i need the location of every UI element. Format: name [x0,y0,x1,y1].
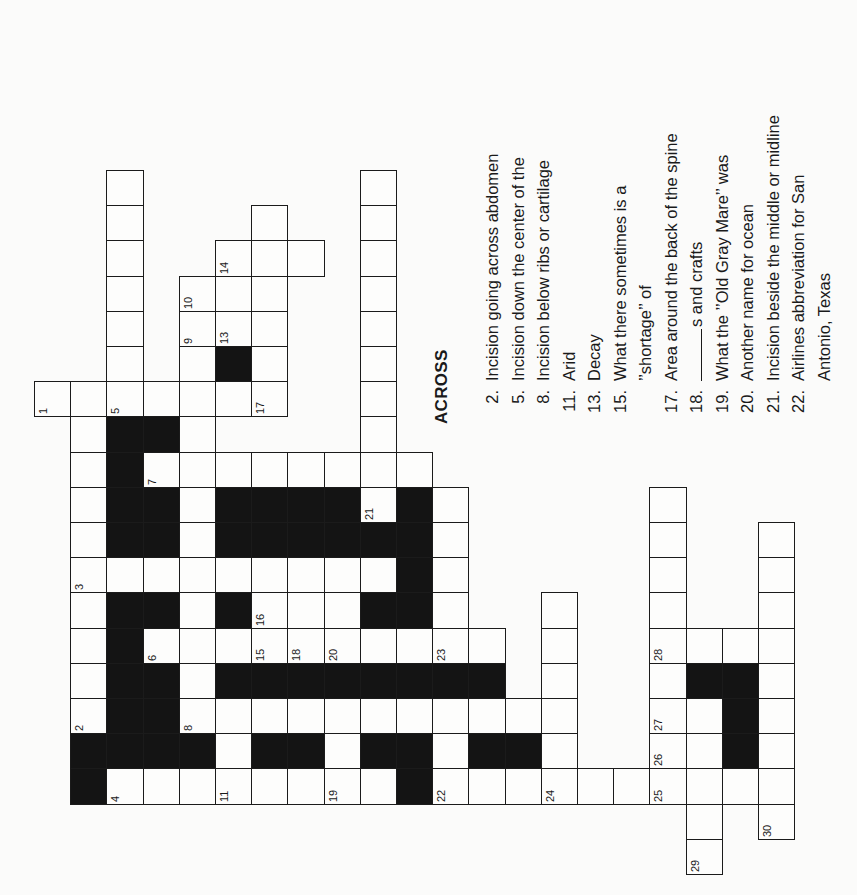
answer-square[interactable] [541,628,578,664]
answer-square[interactable] [686,768,723,804]
answer-square[interactable] [505,698,542,734]
answer-square[interactable] [324,592,361,628]
numbered-square[interactable]: 3 [70,557,107,593]
answer-square[interactable] [70,381,107,417]
answer-square[interactable] [541,733,578,769]
numbered-square[interactable]: 23 [432,628,469,664]
answer-square[interactable] [432,733,469,769]
answer-square[interactable] [758,698,795,734]
answer-square[interactable] [106,276,143,312]
answer-square[interactable] [287,452,324,488]
answer-square[interactable] [360,416,397,452]
numbered-square[interactable]: 15 [251,628,288,664]
answer-square[interactable] [722,628,759,664]
answer-square[interactable] [287,768,324,804]
numbered-square[interactable]: 18 [287,628,324,664]
answer-square[interactable] [360,628,397,664]
numbered-square[interactable]: 28 [649,628,686,664]
answer-square[interactable] [360,698,397,734]
answer-square[interactable] [251,768,288,804]
answer-square[interactable] [468,768,505,804]
answer-square[interactable] [577,768,614,804]
answer-square[interactable] [70,416,107,452]
answer-square[interactable] [251,205,288,241]
answer-square[interactable] [179,381,216,417]
answer-square[interactable] [70,487,107,523]
answer-square[interactable] [70,452,107,488]
answer-square[interactable] [758,557,795,593]
answer-square[interactable] [360,452,397,488]
answer-square[interactable] [649,592,686,628]
numbered-square[interactable]: 2 [70,698,107,734]
numbered-square[interactable]: 25 [649,768,686,804]
answer-square[interactable] [106,205,143,241]
answer-square[interactable] [287,698,324,734]
answer-square[interactable] [613,768,650,804]
answer-square[interactable] [70,628,107,664]
numbered-square[interactable]: 16 [251,592,288,628]
numbered-square[interactable]: 5 [106,381,143,417]
numbered-square[interactable]: 27 [649,698,686,734]
numbered-square[interactable]: 14 [215,240,252,276]
answer-square[interactable] [143,768,180,804]
numbered-square[interactable]: 22 [432,768,469,804]
answer-square[interactable] [179,663,216,699]
answer-square[interactable] [251,452,288,488]
answer-square[interactable] [758,733,795,769]
answer-square[interactable] [649,663,686,699]
answer-square[interactable] [324,557,361,593]
answer-square[interactable] [287,240,324,276]
numbered-square[interactable]: 26 [649,733,686,769]
answer-square[interactable] [287,592,324,628]
answer-square[interactable] [360,346,397,382]
answer-square[interactable] [106,311,143,347]
answer-square[interactable] [686,698,723,734]
answer-square[interactable] [649,487,686,523]
numbered-square[interactable]: 11 [215,768,252,804]
answer-square[interactable] [432,698,469,734]
answer-square[interactable] [215,698,252,734]
answer-square[interactable] [106,170,143,206]
answer-square[interactable] [251,698,288,734]
numbered-square[interactable]: 6 [143,628,180,664]
answer-square[interactable] [432,487,469,523]
answer-square[interactable] [106,557,143,593]
answer-square[interactable] [360,557,397,593]
numbered-square[interactable]: 10 [179,276,216,312]
numbered-square[interactable]: 19 [324,768,361,804]
answer-square[interactable] [432,557,469,593]
answer-square[interactable] [106,346,143,382]
answer-square[interactable] [179,592,216,628]
answer-square[interactable] [468,698,505,734]
answer-square[interactable] [541,592,578,628]
numbered-square[interactable]: 7 [143,452,180,488]
answer-square[interactable] [360,240,397,276]
answer-square[interactable] [215,276,252,312]
numbered-square[interactable]: 9 [179,311,216,347]
answer-square[interactable] [179,628,216,664]
answer-square[interactable] [179,346,216,382]
answer-square[interactable] [360,276,397,312]
answer-square[interactable] [251,557,288,593]
answer-square[interactable] [686,804,723,840]
answer-square[interactable] [70,522,107,558]
answer-square[interactable] [360,205,397,241]
numbered-square[interactable]: 21 [360,487,397,523]
answer-square[interactable] [106,240,143,276]
answer-square[interactable] [505,768,542,804]
answer-square[interactable] [251,276,288,312]
numbered-square[interactable]: 13 [215,311,252,347]
answer-square[interactable] [215,733,252,769]
answer-square[interactable] [468,628,505,664]
answer-square[interactable] [215,452,252,488]
answer-square[interactable] [541,698,578,734]
answer-square[interactable] [324,733,361,769]
answer-square[interactable] [324,452,361,488]
answer-square[interactable] [432,592,469,628]
numbered-square[interactable]: 20 [324,628,361,664]
answer-square[interactable] [215,381,252,417]
answer-square[interactable] [215,557,252,593]
numbered-square[interactable]: 4 [106,768,143,804]
answer-square[interactable] [360,311,397,347]
answer-square[interactable] [143,557,180,593]
